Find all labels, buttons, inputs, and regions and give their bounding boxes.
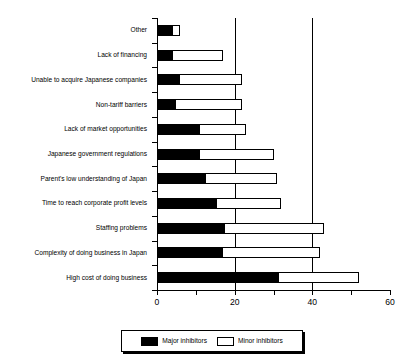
category-axis-labels: OtherLack of financingUnable to acquire … (0, 18, 152, 290)
y-tick-3 (152, 92, 157, 93)
bar-row (157, 173, 277, 184)
x-tick-label-40: 40 (308, 297, 318, 307)
legend-label-minor: Minor inhibitors (238, 337, 283, 345)
bar-segment-major (157, 247, 223, 258)
bar-row (157, 223, 324, 234)
filled-black-swatch (141, 337, 158, 346)
bar-segment-major (157, 149, 200, 160)
outlined-white-swatch (217, 337, 234, 346)
x-tick-50 (351, 290, 352, 295)
bar-segment-major (157, 25, 173, 36)
bar-row (157, 99, 242, 110)
bar-segment-major (157, 50, 173, 61)
y-tick-5 (152, 142, 157, 143)
bar-row (157, 149, 274, 160)
category-label-1: Lack of financing (98, 51, 148, 59)
y-tick-8 (152, 216, 157, 217)
bar-row (157, 25, 180, 36)
y-tick-6 (152, 166, 157, 167)
y-tick-4 (152, 117, 157, 118)
bar-row (157, 247, 320, 258)
stacked-bar-chart: OtherLack of financingUnable to acquire … (0, 0, 409, 364)
bar-segment-major (157, 99, 176, 110)
category-label-6: Parent's low understanding of Japan (41, 175, 147, 183)
category-label-5: Japanese government regulations (48, 150, 147, 158)
y-tick-1 (152, 43, 157, 44)
x-tick-40 (312, 290, 313, 295)
category-label-0: Other (131, 26, 148, 34)
y-tick-7 (152, 191, 157, 192)
category-label-10: High cost of doing business (66, 274, 147, 282)
legend-entry-major: Major inhibitors (141, 337, 207, 346)
bar-row (157, 74, 242, 85)
bar-row (157, 198, 281, 209)
bar-segment-major (157, 74, 180, 85)
x-tick-0 (157, 290, 158, 295)
y-tick-0 (152, 18, 157, 19)
category-label-7: Time to reach corporate profit levels (42, 199, 147, 207)
x-tick-label-0: 0 (155, 297, 160, 307)
category-label-3: Non-tariff barriers (96, 101, 147, 109)
legend-label-major: Major inhibitors (162, 337, 207, 345)
bar-segment-major (157, 198, 217, 209)
y-tick-2 (152, 67, 157, 68)
bar-segment-major (157, 223, 225, 234)
legend-entry-minor: Minor inhibitors (217, 337, 283, 346)
x-tick-label-20: 20 (230, 297, 240, 307)
y-tick-10 (152, 265, 157, 266)
x-tick-60 (390, 290, 391, 295)
category-label-4: Lack of market opportunities (64, 125, 147, 133)
bar-row (157, 272, 359, 283)
x-tick-30 (274, 290, 275, 295)
y-tick-9 (152, 241, 157, 242)
bar-row (157, 50, 223, 61)
x-tick-label-60: 60 (385, 297, 395, 307)
bar-segment-major (157, 272, 279, 283)
bar-segment-major (157, 173, 206, 184)
bar-segment-major (157, 124, 200, 135)
category-label-8: Staffing problems (96, 224, 147, 232)
bar-row (157, 124, 246, 135)
x-tick-10 (196, 290, 197, 295)
category-label-2: Unable to acquire Japanese companies (31, 76, 147, 84)
category-label-9: Complexity of doing business in Japan (34, 249, 147, 257)
chart-legend: Major inhibitors Minor inhibitors (121, 330, 303, 352)
x-tick-20 (235, 290, 236, 295)
